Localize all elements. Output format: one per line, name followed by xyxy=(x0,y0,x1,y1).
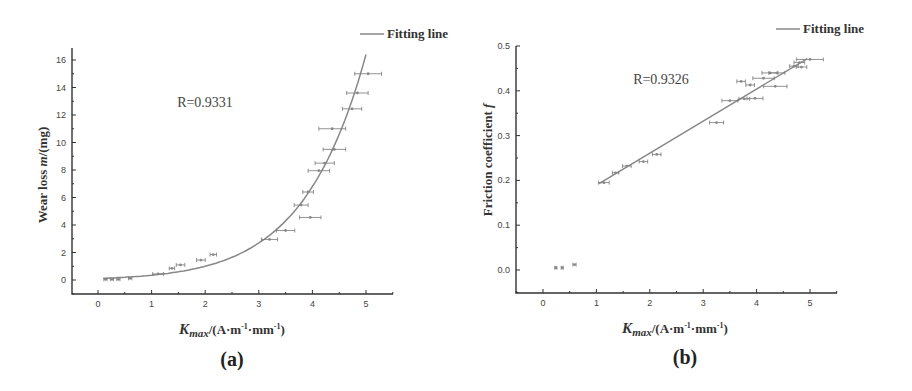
x-tick-label: 0 xyxy=(540,298,545,308)
x-tick-label: 4 xyxy=(310,299,315,309)
point-marker xyxy=(284,229,287,232)
data-point xyxy=(342,107,361,111)
point-marker xyxy=(351,107,354,110)
point-marker xyxy=(200,259,203,262)
point-marker xyxy=(117,278,120,281)
point-marker xyxy=(762,77,765,80)
point-marker xyxy=(333,148,336,151)
panel-label: (a) xyxy=(220,348,243,371)
point-marker xyxy=(793,65,796,68)
data-point xyxy=(303,190,314,194)
point-marker xyxy=(774,85,777,88)
chart-a-svg: 0123450246810121416Fitting lineR=0.9331W… xyxy=(0,0,456,391)
point-marker xyxy=(775,71,778,74)
point-marker xyxy=(331,127,334,130)
data-point xyxy=(599,181,610,185)
chart-b-friction-coefficient: 0123450.00.10.20.30.40.5Fitting lineR=0.… xyxy=(456,0,912,391)
point-marker xyxy=(625,165,628,168)
data-point xyxy=(169,266,174,270)
data-point xyxy=(355,72,382,76)
y-tick-label: 6 xyxy=(61,193,66,203)
data-point xyxy=(554,266,557,270)
data-point xyxy=(737,79,746,83)
data-point xyxy=(746,83,755,87)
data-point xyxy=(197,258,206,262)
point-marker xyxy=(749,84,752,87)
x-tick-label: 2 xyxy=(647,298,652,308)
y-axis-label: Friction coefficient f xyxy=(480,102,495,216)
y-tick-label: 0.2 xyxy=(497,175,510,185)
data-point xyxy=(315,161,334,165)
y-tick-label: 0.3 xyxy=(497,131,510,141)
point-marker xyxy=(104,278,107,281)
x-axis-label: Kmax/(A·m-1·mm-1) xyxy=(178,321,285,339)
y-tick-label: 0.0 xyxy=(497,265,510,275)
data-point xyxy=(639,160,648,164)
y-tick-label: 16 xyxy=(56,55,66,65)
point-marker xyxy=(798,61,801,64)
data-point xyxy=(300,215,321,219)
y-tick-label: 0.5 xyxy=(497,41,510,51)
point-marker xyxy=(171,267,174,270)
point-marker xyxy=(740,80,743,83)
point-marker xyxy=(754,97,757,100)
data-point xyxy=(652,152,661,156)
x-tick-label: 1 xyxy=(594,298,599,308)
y-tick-label: 4 xyxy=(61,220,66,230)
x-tick-label: 0 xyxy=(95,299,100,309)
point-marker xyxy=(268,238,271,241)
point-marker xyxy=(554,266,557,269)
point-marker xyxy=(743,97,746,100)
x-tick-label: 5 xyxy=(363,299,368,309)
y-tick-label: 12 xyxy=(56,110,66,120)
plot-area: 0123450246810121416 xyxy=(56,48,393,309)
data-point xyxy=(261,237,277,241)
fitting-line xyxy=(103,55,366,279)
point-marker xyxy=(309,216,312,219)
data-point xyxy=(573,263,576,267)
y-tick-label: 14 xyxy=(56,83,66,93)
point-marker xyxy=(367,72,370,75)
data-point xyxy=(210,253,216,257)
x-axis-label: Kmax/(A·m-1·mm-1) xyxy=(621,320,728,338)
data-point xyxy=(796,65,807,69)
legend-label: Fitting line xyxy=(387,26,448,41)
correlation-annotation: R=0.9331 xyxy=(177,95,233,110)
x-tick-label: 1 xyxy=(149,299,154,309)
legend-label: Fitting line xyxy=(803,21,864,36)
point-marker xyxy=(655,153,658,156)
y-tick-label: 0 xyxy=(61,275,66,285)
data-point xyxy=(797,57,824,61)
y-tick-label: 8 xyxy=(61,165,66,175)
y-tick-label: 0.1 xyxy=(497,220,510,230)
legend: Fitting line xyxy=(360,26,448,41)
point-marker xyxy=(317,169,320,172)
point-marker xyxy=(157,273,160,276)
point-marker xyxy=(179,263,182,266)
data-point xyxy=(347,91,368,95)
point-marker xyxy=(111,278,114,281)
data-point xyxy=(276,229,294,233)
x-tick-label: 5 xyxy=(807,298,812,308)
data-point xyxy=(294,203,308,207)
y-tick-label: 0.4 xyxy=(497,86,510,96)
point-marker xyxy=(642,160,645,163)
legend: Fitting line xyxy=(776,21,864,36)
point-marker xyxy=(729,99,732,102)
point-marker xyxy=(300,204,303,207)
fitting-line xyxy=(599,59,807,184)
correlation-annotation: R=0.9326 xyxy=(633,72,689,87)
x-tick-label: 2 xyxy=(203,299,208,309)
x-tick-label: 3 xyxy=(256,299,261,309)
chart-a-wear-loss: 0123450246810121416Fitting lineR=0.9331W… xyxy=(0,0,456,391)
chart-b-svg: 0123450.00.10.20.30.40.5Fitting lineR=0.… xyxy=(456,0,912,391)
data-point xyxy=(739,97,750,101)
point-marker xyxy=(800,66,803,69)
point-marker xyxy=(212,253,215,256)
data-point xyxy=(176,263,185,267)
data-point xyxy=(710,121,724,125)
data-point xyxy=(323,147,346,151)
point-marker xyxy=(356,92,359,95)
x-tick-label: 4 xyxy=(754,298,759,308)
point-marker xyxy=(573,263,576,266)
